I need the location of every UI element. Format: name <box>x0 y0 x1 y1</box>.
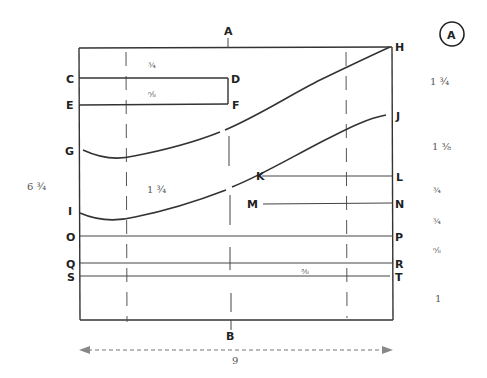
label-A: A <box>224 25 233 38</box>
pattern-drafting-diagram: A B C D E F G H I J K L M N O P Q R S T … <box>0 0 487 378</box>
measure-T-to-bottom: 1 <box>435 293 441 304</box>
measure-Q-to-S: ⅜ <box>301 267 309 276</box>
label-S: S <box>67 271 75 284</box>
badge-letter: A <box>447 29 456 42</box>
point-labels: A B C D E F G H I J K L M N O P Q R S T <box>65 25 404 343</box>
top-edge-line <box>79 47 392 48</box>
measure-G-to-I: 1 ¾ <box>147 184 167 195</box>
measure-J-to-L: 1 ⅜ <box>432 141 452 152</box>
measure-CD-to-EF: ⅝ <box>148 90 156 99</box>
overall-height-label: 6 ¾ <box>27 181 47 192</box>
measure-N-to-P: ¾ <box>433 217 441 226</box>
measure-L-to-N: ¾ <box>433 186 441 195</box>
label-P: P <box>395 231 403 244</box>
arrowhead-left-icon <box>79 346 90 354</box>
figure-badge: A <box>440 22 464 46</box>
label-L: L <box>396 171 403 184</box>
line-EF <box>79 104 228 105</box>
measure-P-to-R: ⅝ <box>433 246 441 255</box>
label-T: T <box>395 271 403 284</box>
label-I: I <box>68 205 72 218</box>
left-dashed-guide <box>126 52 127 322</box>
label-B: B <box>226 330 234 343</box>
right-dashed-guide <box>346 52 347 318</box>
label-E: E <box>66 99 74 112</box>
label-D: D <box>231 73 240 86</box>
right-edge-line <box>392 47 393 320</box>
label-J: J <box>395 110 400 123</box>
line-MN <box>263 203 392 204</box>
label-R: R <box>395 258 404 271</box>
label-Q: Q <box>66 258 75 271</box>
label-K: K <box>256 170 265 183</box>
label-G: G <box>65 145 74 158</box>
arrowhead-right-icon <box>382 346 393 354</box>
label-O: O <box>66 231 75 244</box>
left-edge-line <box>79 48 80 320</box>
label-F: F <box>232 99 240 112</box>
measure-top-to-CD: ¾ <box>148 61 156 70</box>
label-N: N <box>395 198 404 211</box>
overall-width-label: 9 <box>232 355 238 366</box>
measure-H-to-J: 1 ¾ <box>430 76 450 87</box>
label-C: C <box>66 73 74 86</box>
label-H: H <box>395 41 404 54</box>
right-measurements: 1 ¾ 1 ⅜ ¾ ¾ ⅝ 1 <box>430 76 452 304</box>
width-dimension-arrow <box>79 346 393 354</box>
label-M: M <box>247 198 258 211</box>
